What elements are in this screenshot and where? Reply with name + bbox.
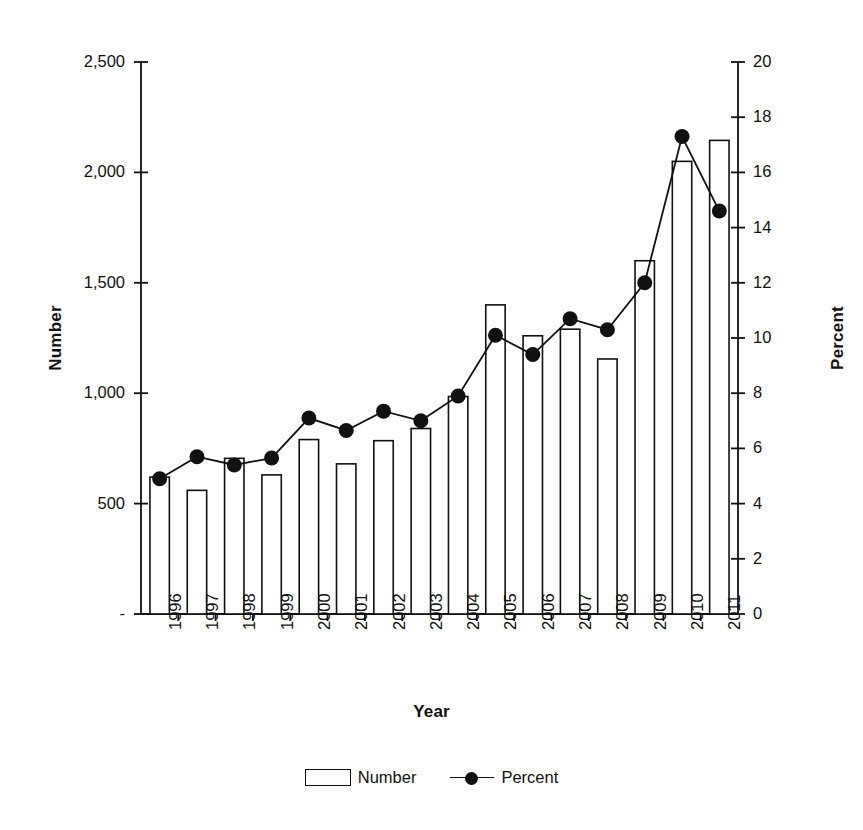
data-point-marker (189, 449, 204, 464)
y-axis-left-title: Number (46, 62, 66, 614)
y-tick-label-right: 10 (753, 328, 771, 347)
x-tick-label: 2001 (352, 593, 371, 630)
y-tick-label-right: 12 (753, 273, 771, 292)
legend-label-number: Number (358, 768, 417, 787)
bar (598, 359, 617, 614)
data-point-marker (637, 275, 652, 290)
bar-series-number (150, 140, 729, 614)
y-tick-label-right: 2 (753, 549, 762, 568)
x-tick-label: 2008 (613, 593, 632, 630)
x-tick-label: 2010 (688, 593, 707, 630)
legend-label-percent: Percent (501, 768, 558, 787)
bar (448, 397, 467, 614)
y-tick-label-left: 500 (0, 494, 125, 513)
bar (560, 329, 579, 614)
x-tick-label: 2000 (315, 593, 334, 630)
bar (672, 161, 691, 614)
x-tick-label: 2002 (390, 593, 409, 630)
legend-line-marker-swatch-icon (450, 771, 494, 785)
legend-bar-swatch-icon (305, 769, 351, 786)
bar (299, 440, 318, 614)
data-point-marker (376, 404, 391, 419)
data-point-marker (488, 328, 503, 343)
data-point-marker (301, 411, 316, 426)
x-tick-label: 2003 (427, 593, 446, 630)
x-tick-label: 1998 (240, 593, 259, 630)
bar (337, 464, 356, 614)
data-point-marker (152, 471, 167, 486)
x-axis-title: Year (0, 702, 863, 722)
y-tick-label-right: 16 (753, 162, 771, 181)
chart-legend: Number Percent (0, 768, 863, 787)
y-tick-label-left: - (0, 604, 125, 623)
y-tick-label-right: 6 (753, 438, 762, 457)
bar (486, 305, 505, 614)
y-tick-label-right: 20 (753, 52, 771, 71)
y-axis-right-title: Percent (828, 62, 848, 614)
data-point-marker (600, 322, 615, 337)
y-tick-label-left: 2,500 (0, 52, 125, 71)
y-tick-label-right: 14 (753, 218, 771, 237)
bar (411, 429, 430, 614)
bar (523, 336, 542, 614)
x-tick-label: 1999 (278, 593, 297, 630)
data-point-marker (563, 311, 578, 326)
data-point-marker (264, 451, 279, 466)
x-tick-label: 1996 (166, 593, 185, 630)
bar (635, 261, 654, 614)
y-tick-label-right: 8 (753, 383, 762, 402)
x-tick-label: 2007 (576, 593, 595, 630)
data-point-marker (712, 204, 727, 219)
chart-figure: Number Percent Year -5001,0001,5002,0002… (0, 0, 863, 830)
data-point-marker (413, 413, 428, 428)
legend-item-percent: Percent (450, 768, 558, 787)
data-point-marker (451, 388, 466, 403)
y-tick-label-left: 2,000 (0, 162, 125, 181)
y-tick-label-left: 1,500 (0, 273, 125, 292)
y-tick-label-right: 0 (753, 604, 762, 623)
y-tick-label-right: 4 (753, 494, 762, 513)
bar (225, 458, 244, 614)
data-point-marker (525, 347, 540, 362)
x-tick-label: 2009 (651, 593, 670, 630)
bar (374, 441, 393, 614)
x-tick-label: 1997 (203, 593, 222, 630)
x-tick-label: 2006 (539, 593, 558, 630)
data-point-marker (675, 129, 690, 144)
legend-item-number: Number (305, 768, 417, 787)
data-point-marker (227, 457, 242, 472)
x-tick-label: 2005 (501, 593, 520, 630)
y-tick-label-left: 1,000 (0, 383, 125, 402)
x-tick-label: 2004 (464, 593, 483, 630)
x-tick-label: 2011 (725, 595, 744, 630)
data-point-marker (339, 423, 354, 438)
y-tick-label-right: 18 (753, 107, 771, 126)
